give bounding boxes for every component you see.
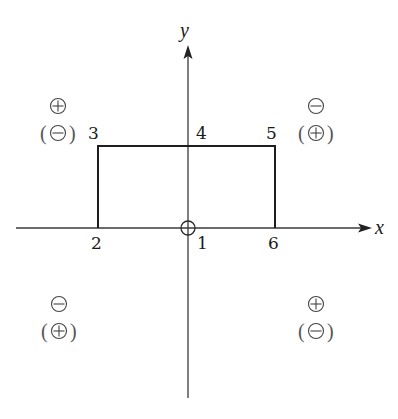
y-axis: y [178,19,193,398]
parenthesized-circled-minus-icon: ( ) [40,122,76,145]
point-label-6: 6 [268,233,279,253]
point-label-3: 3 [88,123,99,143]
svg-text:(: ( [298,122,305,145]
parenthesized-circled-minus-icon: ( ) [298,320,334,343]
coordinate-diagram: x y 1 2 3 4 5 6 ( ) [0,0,398,419]
quadrant-sign-top-right: ( ) [298,99,334,146]
parenthesized-circled-plus-icon: ( ) [41,320,77,343]
svg-text:): ) [69,122,76,145]
quadrant-sign-bottom-right: ( ) [298,297,334,344]
point-label-4: 4 [196,123,207,143]
svg-text:): ) [327,122,334,145]
circled-plus-icon [309,297,324,312]
svg-text:(: ( [298,320,305,343]
svg-text:): ) [70,320,77,343]
point-label-5: 5 [266,123,277,143]
y-axis-label: y [178,19,189,42]
point-label-2: 2 [91,233,102,253]
circled-minus-icon [52,297,67,312]
parenthesized-circled-plus-icon: ( ) [298,122,334,145]
point-label-1: 1 [197,233,208,253]
x-axis-label: x [374,216,384,238]
circled-plus-icon [51,99,66,114]
quadrant-sign-bottom-left: ( ) [41,297,77,344]
quadrant-sign-top-left: ( ) [40,99,76,146]
rectangular-path [98,146,275,228]
svg-text:(: ( [40,122,47,145]
svg-text:(: ( [41,320,48,343]
svg-text:): ) [327,320,334,343]
circled-minus-icon [309,99,324,114]
